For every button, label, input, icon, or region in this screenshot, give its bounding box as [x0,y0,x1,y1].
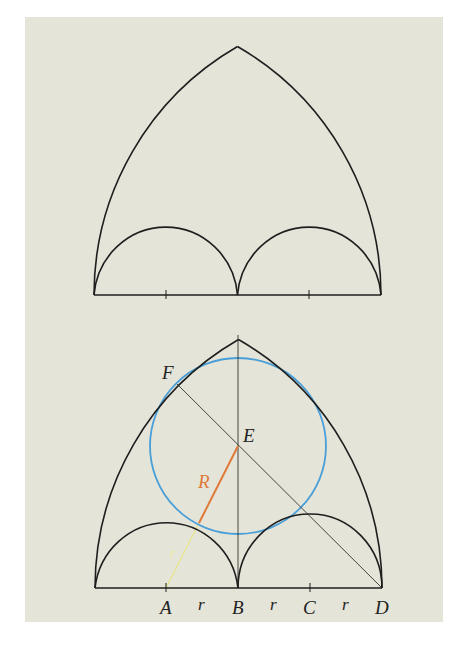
label-a: A [158,597,172,618]
label-r-small: r [170,546,176,561]
bottom-construction-diagram [95,335,382,592]
bottom-sub-arch-right [238,514,382,588]
label-e: E [242,425,255,446]
label-R: R [197,471,210,492]
top-outer-arch-left [94,47,238,296]
top-outer-arch-right [238,47,382,296]
label-d: D [374,597,389,618]
label-f: F [161,362,174,383]
top-arch-diagram [94,47,381,300]
arch-diagrams: F E R r A r B r C r D [0,0,466,648]
top-sub-arch-left [94,227,238,295]
label-b: B [232,597,244,618]
label-r-bc: r [270,595,277,614]
label-r-ab: r [198,595,205,614]
label-r-cd: r [342,595,349,614]
top-sub-arch-right [238,227,382,295]
bottom-outer-arch-right [239,340,383,589]
bottom-sub-arch-left [95,523,238,588]
label-c: C [303,597,316,618]
